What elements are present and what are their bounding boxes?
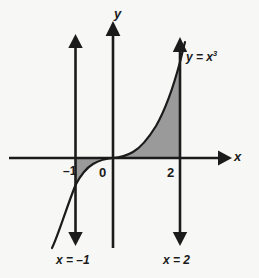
curve-equation-label: y = x3: [186, 50, 217, 63]
x-tick-label-minus-one: –1: [63, 165, 76, 177]
figure-canvas: y x –1 0 2 y = x3 x = –1 x = 2: [0, 0, 259, 278]
curve-equation-exponent: 3: [213, 49, 217, 58]
x-tick-label-zero: 0: [99, 166, 106, 179]
vertical-line-left-label-base: x =: [56, 253, 76, 267]
vertical-line-left-up-arrowhead-icon: [68, 34, 82, 48]
y-axis: [106, 21, 121, 248]
x-axis: [9, 151, 232, 166]
vertical-line-right-label-value: 2: [183, 253, 190, 267]
y-axis-arrowhead-icon: [106, 21, 121, 36]
shaded-region-right: [113, 62, 180, 158]
vertical-line-x-minus-1: [68, 34, 82, 246]
vertical-line-left-label-value: –1: [76, 253, 89, 267]
curve-equation-base: y = x: [186, 50, 213, 64]
vertical-line-left-label: x = –1: [56, 254, 90, 266]
x-axis-arrowhead-icon: [218, 151, 232, 166]
x-tick-label-two: 2: [167, 166, 174, 179]
x-axis-label: x: [234, 150, 241, 163]
shaded-region-left: [76, 158, 114, 185]
vertical-line-right-label-base: x =: [163, 253, 183, 267]
cubic-function-graph: [0, 0, 259, 278]
vertical-line-right-label: x = 2: [163, 254, 190, 266]
vertical-line-right-down-arrowhead-icon: [173, 232, 187, 246]
vertical-line-left-down-arrowhead-icon: [68, 232, 82, 246]
y-axis-label: y: [114, 7, 121, 20]
